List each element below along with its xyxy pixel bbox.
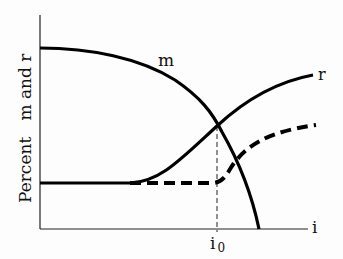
- diagram: m r i i0 Percent m and r: [0, 0, 343, 259]
- i0-subscript: 0: [217, 241, 225, 255]
- curve-m: [40, 48, 259, 229]
- y-axis-label: Percent m and r: [15, 53, 35, 203]
- i0-main: i: [210, 233, 216, 253]
- curve-m-label: m: [158, 50, 174, 70]
- curve-r-label: r: [318, 65, 326, 84]
- i0-tick-label: i0: [210, 233, 225, 255]
- x-axis-label: i: [312, 217, 318, 237]
- curve-r: [40, 75, 313, 183]
